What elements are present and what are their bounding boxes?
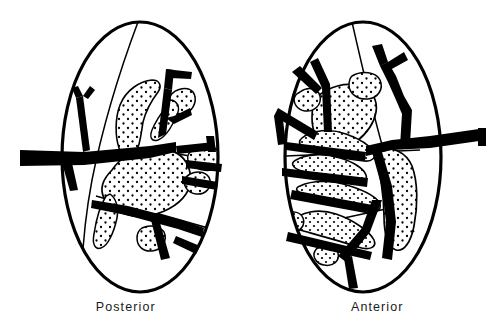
panel-anterior xyxy=(274,22,486,292)
artery-top-stem-anterior xyxy=(372,44,388,66)
kidney-figure xyxy=(0,0,503,333)
caption-anterior: Anterior xyxy=(351,300,404,314)
artery-ascending-anterior xyxy=(380,62,412,146)
caption-cell-posterior: Posterior xyxy=(0,300,252,328)
caption-posterior: Posterior xyxy=(96,300,156,314)
artery-entry-hook xyxy=(478,128,486,146)
caption-cell-anterior: Anterior xyxy=(252,300,503,328)
artery-bottom-tail-anterior xyxy=(344,256,358,289)
main-renal-artery-anterior xyxy=(366,128,486,156)
artery-upper-crossbar xyxy=(166,69,192,79)
calyx-upper-right-anterior xyxy=(349,73,381,100)
kidney-diagram-svg xyxy=(0,0,503,333)
artery-fork-upper-b xyxy=(83,86,95,99)
artery-branch-upper-vertical xyxy=(76,96,90,152)
panel-posterior xyxy=(20,22,223,292)
calyx-upper-posterior xyxy=(116,80,160,155)
captions-row: Posterior Anterior xyxy=(0,300,503,328)
